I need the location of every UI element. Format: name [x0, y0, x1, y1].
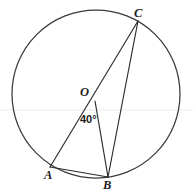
- segment-a-to-b: [50, 167, 108, 177]
- geometry-canvas: [0, 0, 193, 196]
- segment-o-to-b: [95, 101, 108, 177]
- geometry-diagram: O A B C 40°: [0, 0, 193, 196]
- angle-label-aob: 40°: [80, 114, 97, 125]
- point-label-o: O: [80, 86, 89, 99]
- point-label-b: B: [103, 179, 111, 192]
- point-label-c: C: [134, 7, 142, 20]
- segment-c-to-b: [108, 21, 138, 177]
- segment-a-to-c: [50, 21, 138, 167]
- main-circle: [12, 10, 180, 178]
- point-label-a: A: [44, 169, 52, 182]
